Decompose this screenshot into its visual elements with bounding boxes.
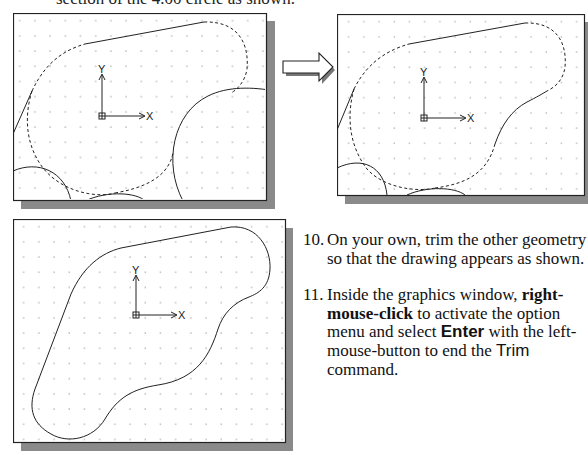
ucs-x-label: X xyxy=(178,309,186,321)
emphasis-enter: Enter xyxy=(441,322,484,341)
ucs-x-label: X xyxy=(146,110,154,122)
step-number: 10. xyxy=(303,231,324,250)
emphasis-trim: Trim xyxy=(496,341,529,360)
ucs-y-label: Y xyxy=(132,264,140,276)
drawing-panel-final: Y X xyxy=(13,219,293,451)
ucs-y-label: Y xyxy=(420,66,428,78)
instruction-steps: 10. On your own, trim the other geometry… xyxy=(303,231,588,397)
step-11: 11. Inside the graphics window, right-mo… xyxy=(303,286,588,379)
drawing-panel-after: Y X xyxy=(337,14,588,204)
cropped-instruction-text: section of the 4.00 circle as shown. xyxy=(56,0,295,9)
step-text-part: Inside the graphics window, xyxy=(327,285,522,304)
ucs-x-label: X xyxy=(467,112,475,124)
grid-dots xyxy=(14,220,285,442)
step-number: 11. xyxy=(303,286,324,305)
step-text-part: command. xyxy=(327,360,398,379)
grid-dots xyxy=(338,15,584,195)
ucs-y-label: Y xyxy=(98,63,106,75)
step-text: On your own, trim the other geometry so … xyxy=(327,230,586,268)
grid-dots xyxy=(14,14,265,199)
drawing-panel-before: Y X xyxy=(13,13,275,209)
step-10: 10. On your own, trim the other geometry… xyxy=(303,231,588,268)
right-arrow-icon xyxy=(280,50,338,90)
